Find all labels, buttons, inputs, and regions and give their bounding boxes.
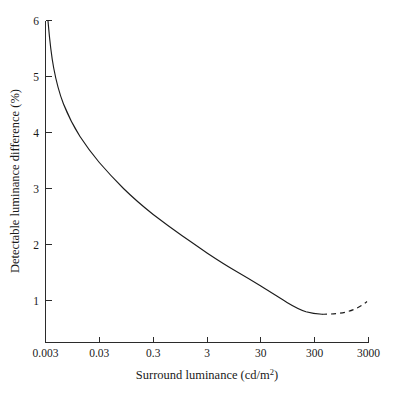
x-axis-title-main: Surround luminance (cd/m: [136, 368, 270, 382]
data-curve-dashed: [322, 302, 367, 315]
y-tick-label-3: 3: [33, 183, 39, 195]
data-curve-solid: [48, 21, 322, 314]
y-tick-label-4: 4: [33, 127, 39, 139]
x-tick-label-300: 300: [306, 347, 324, 359]
x-axis-title: Surround luminance (cd/m2): [136, 367, 278, 382]
y-tick-label-6: 6: [33, 15, 39, 27]
x-tick-label-30: 30: [255, 347, 267, 359]
y-axis-ticks: [46, 21, 52, 301]
y-axis-title: Detectable luminance difference (%): [8, 89, 22, 273]
y-tick-label-2: 2: [33, 239, 39, 251]
x-axis-ticks: [46, 337, 369, 343]
y-tick-label-1: 1: [33, 295, 39, 307]
x-tick-label-0.003: 0.003: [33, 347, 59, 359]
chart-canvas: 6 5 4 3 2 1 0.003 0.03 0.3 3 30 300 3000…: [0, 0, 398, 395]
y-tick-label-5: 5: [33, 71, 39, 83]
x-tick-label-3000: 3000: [357, 347, 380, 359]
chart-figure: 6 5 4 3 2 1 0.003 0.03 0.3 3 30 300 3000…: [0, 0, 398, 395]
x-tick-label-3: 3: [204, 347, 210, 359]
x-axis-title-tail: ): [274, 368, 278, 382]
x-tick-label-0.3: 0.3: [146, 347, 161, 359]
x-tick-label-0.03: 0.03: [89, 347, 109, 359]
